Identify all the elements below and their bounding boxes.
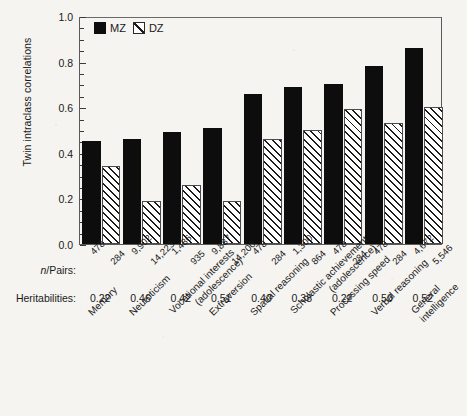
- plot-area: [79, 17, 442, 245]
- bar-mz: [123, 139, 142, 244]
- bar-mz: [324, 84, 343, 244]
- legend-swatch-dz-icon: [133, 22, 145, 34]
- bar-group: [284, 18, 322, 244]
- bar-mz: [203, 128, 222, 244]
- legend-item-mz: MZ: [94, 22, 126, 34]
- y-tick-label: 0.6: [43, 102, 73, 114]
- bar-dz: [384, 123, 403, 244]
- y-axis-tick-labels: 0.00.20.40.60.81.0: [42, 17, 73, 245]
- bar-group: [324, 18, 362, 244]
- legend-swatch-mz-icon: [94, 22, 106, 34]
- y-tick-label: 1.0: [43, 11, 73, 23]
- bar-group: [365, 18, 403, 244]
- bar-mz: [244, 94, 263, 244]
- bar-group: [203, 18, 241, 244]
- bar-group: [405, 18, 443, 244]
- bar-group: [82, 18, 120, 244]
- bar-dz: [424, 107, 443, 244]
- y-axis-title: Twin intraclass correlations: [21, 7, 33, 197]
- bar-mz: [405, 48, 424, 244]
- category-label: Generalintelligence: [409, 273, 461, 325]
- bars-layer: [80, 18, 441, 244]
- bar-dz: [263, 139, 282, 244]
- npairs-dz-value: 284: [108, 248, 127, 267]
- y-tick-label: 0.4: [43, 148, 73, 160]
- bar-mz: [163, 132, 182, 244]
- bar-mz: [284, 87, 303, 244]
- legend-label-dz: DZ: [149, 22, 164, 34]
- heritabilities-row-label: Heritabilities:: [0, 292, 76, 304]
- npairs-dz-value: 284: [269, 248, 288, 267]
- y-tick-label: 0.8: [43, 57, 73, 69]
- npairs-dz-value: 284: [390, 248, 409, 267]
- bar-dz: [102, 166, 121, 244]
- npairs-dz-value: 5,546: [430, 242, 455, 267]
- legend-label-mz: MZ: [110, 22, 126, 34]
- npairs-dz-value: 864: [309, 248, 328, 267]
- bar-mz: [82, 141, 101, 244]
- bar-mz: [365, 66, 384, 244]
- bar-group: [163, 18, 201, 244]
- bar-dz: [344, 109, 363, 244]
- npairs-dz-value: 935: [188, 248, 207, 267]
- npairs-label-rest: /Pairs:: [46, 264, 76, 276]
- y-tick-major: [80, 245, 86, 246]
- legend-item-dz: DZ: [133, 22, 164, 34]
- figure-twin-intraclass-correlations: Twin intraclass correlations 0.00.20.40.…: [0, 0, 467, 416]
- legend: MZ DZ: [94, 22, 164, 34]
- bar-group: [123, 18, 161, 244]
- bar-group: [244, 18, 282, 244]
- y-tick-label: 0.2: [43, 193, 73, 205]
- npairs-row-label: n/Pairs:: [8, 264, 76, 276]
- bar-dz: [303, 130, 322, 244]
- y-tick-label: 0.0: [43, 239, 73, 251]
